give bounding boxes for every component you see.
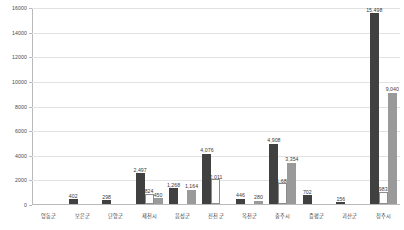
bar-slot: 402 (69, 8, 78, 204)
bar-slot (53, 8, 62, 204)
bar-groups: 4022982,4978244501,2681,1644,0762,011446… (32, 8, 400, 204)
bar[interactable]: 2,497 (136, 173, 145, 204)
x-tick-label: 보은군 (65, 212, 98, 219)
bar[interactable]: 298 (102, 200, 111, 204)
bar-slot (120, 8, 129, 204)
bar-value-label: 702 (303, 189, 312, 195)
y-tick-label: 2000 (15, 177, 27, 183)
bar-group: 446280 (233, 8, 266, 204)
bar-slot: 298 (102, 8, 111, 204)
x-axis-line (32, 204, 400, 205)
bar-slot: 2,011 (211, 8, 220, 204)
x-tick-label: 제천시 (132, 212, 165, 219)
y-tick-label: 12000 (12, 54, 27, 60)
y-tick-mark (29, 8, 32, 9)
bar-group: 15,4989839,040 (367, 8, 400, 204)
bar[interactable]: 402 (69, 199, 78, 204)
bar[interactable]: 824 (145, 194, 154, 204)
bar-value-label: 156 (336, 196, 345, 202)
bar[interactable]: 702 (303, 195, 312, 204)
bar-group: 702 (300, 8, 333, 204)
y-axis-labels: 0200040006000800010000120001400016000 (0, 8, 30, 205)
bar[interactable]: 280 (254, 201, 263, 204)
y-tick-label: 16000 (12, 5, 27, 11)
x-tick-label: 충주시 (266, 212, 299, 219)
bar-value-label: 402 (69, 193, 78, 199)
bar-slot: 156 (336, 8, 345, 204)
bar-value-label: 9,040 (386, 86, 399, 92)
plot-area: 4022982,4978244501,2681,1644,0762,011446… (32, 8, 400, 205)
y-tick-label: 14000 (12, 30, 27, 36)
bar-slot (345, 8, 354, 204)
bar-slot (44, 8, 53, 204)
bar-slot: 702 (303, 8, 312, 204)
bar-slot: 1,688 (278, 8, 287, 204)
y-tick-label: 8000 (15, 104, 27, 110)
x-tick-label: 단양군 (99, 212, 132, 219)
bar[interactable]: 156 (336, 202, 345, 204)
y-tick-label: 10000 (12, 79, 27, 85)
x-tick-label: 옥천군 (233, 212, 266, 219)
bar-slot: 9,040 (388, 8, 397, 204)
bar-group: 2,497824450 (132, 8, 165, 204)
bar-value-label: 1,164 (185, 183, 198, 189)
bar-group (32, 8, 65, 204)
bar[interactable]: 446 (236, 199, 245, 204)
bar[interactable]: 1,164 (187, 190, 196, 204)
bar-group: 298 (99, 8, 132, 204)
bar[interactable]: 15,498 (370, 13, 379, 204)
bar-group: 402 (65, 8, 98, 204)
bar-slot (178, 8, 187, 204)
x-tick-label: 증평군 (300, 212, 333, 219)
bar[interactable]: 1,268 (169, 188, 178, 204)
bar-slot (111, 8, 120, 204)
x-tick-label: 음성군 (166, 212, 199, 219)
y-tick-label: 0 (24, 202, 27, 208)
bar-slot: 1,164 (187, 8, 196, 204)
bar-value-label: 983 (379, 186, 388, 192)
bar-group: 1,2681,164 (166, 8, 199, 204)
bar-slot (312, 8, 321, 204)
bar[interactable]: 1,688 (278, 183, 287, 204)
bar-value-label: 298 (102, 194, 111, 200)
y-tick-mark (29, 82, 32, 83)
bar[interactable]: 450 (154, 198, 163, 204)
bar-slot: 15,498 (370, 8, 379, 204)
bar-slot: 824 (145, 8, 154, 204)
y-tick-mark (29, 156, 32, 157)
bar-value-label: 446 (236, 192, 245, 198)
bar[interactable]: 9,040 (388, 93, 397, 204)
x-axis-labels: 영동군보은군단양군제천시음성군진천군옥천군충주시증평군괴산군청주시 (32, 212, 400, 219)
bar[interactable]: 3,354 (287, 163, 296, 204)
bar-slot: 280 (254, 8, 263, 204)
bar-slot (321, 8, 330, 204)
bar-slot (245, 8, 254, 204)
x-tick-label: 청주시 (367, 212, 400, 219)
bar-slot: 450 (154, 8, 163, 204)
bar[interactable]: 4,908 (269, 144, 278, 204)
bar[interactable]: 983 (379, 192, 388, 204)
bar-slot (354, 8, 363, 204)
bar-slot: 4,908 (269, 8, 278, 204)
bar-value-label: 280 (254, 194, 263, 200)
y-tick-label: 6000 (15, 128, 27, 134)
bar-slot: 3,354 (287, 8, 296, 204)
bar-slot (78, 8, 87, 204)
x-tick-label: 괴산군 (333, 212, 366, 219)
y-tick-mark (29, 33, 32, 34)
bar-group: 4,9081,6883,354 (266, 8, 299, 204)
y-tick-mark (29, 180, 32, 181)
bar-value-label: 450 (154, 192, 163, 198)
bar-slot: 446 (236, 8, 245, 204)
bar-slot: 2,497 (136, 8, 145, 204)
y-tick-label: 4000 (15, 153, 27, 159)
bar-group: 4,0762,011 (199, 8, 232, 204)
bar-slot (220, 8, 229, 204)
bar[interactable]: 2,011 (211, 179, 220, 204)
bar-value-label: 3,354 (285, 156, 298, 162)
y-tick-mark (29, 107, 32, 108)
y-tick-mark (29, 131, 32, 132)
x-tick-label: 영동군 (32, 212, 65, 219)
bar-chart: 0200040006000800010000120001400016000 40… (0, 0, 404, 230)
bar-slot (87, 8, 96, 204)
